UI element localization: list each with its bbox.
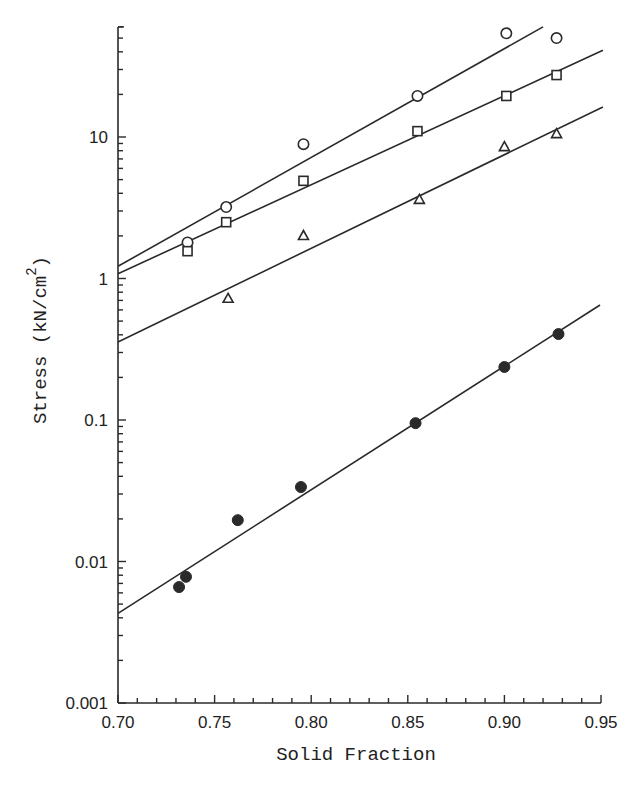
x-axis-title: Solid Fraction [276,744,436,766]
data-point-circle-open [551,33,561,43]
fit-line-circle-filled [118,305,600,613]
x-tick-label: 0.90 [488,713,521,732]
x-tick-labels: 0.70 0.75 0.80 0.85 0.90 0.95 [101,713,617,732]
fit-lines [118,27,603,613]
data-point-circle-filled [174,582,185,593]
data-point-circle-filled [410,418,421,429]
data-point-circle-filled [295,482,306,493]
stress-vs-solid-fraction-chart: 0.001 0.01 0.1 1 10 0.70 0.75 0.80 0.85 … [0,0,641,795]
y-tick-label: 0.001 [65,694,108,713]
y-tick-label: 10 [89,128,108,147]
x-tick-label: 0.70 [101,713,134,732]
data-point-square-open [552,71,561,80]
data-point-triangle-open [298,231,308,240]
x-ticks [118,695,601,703]
data-point-circle-open [298,139,308,149]
data-point-triangle-open [414,194,424,203]
y-tick-label: 0.01 [75,553,108,572]
y-tick-label: 1 [99,270,108,289]
y-tick-label: 0.1 [84,411,108,430]
data-point-circle-filled [232,515,243,526]
data-markers [174,28,564,592]
data-point-circle-filled [499,361,510,372]
y-ticks [118,27,126,703]
data-point-circle-open [501,28,511,38]
data-point-circle-filled [181,571,192,582]
data-point-square-open [502,91,511,100]
y-axis-title-superscript: 2 [24,267,40,275]
data-point-triangle-open [499,142,509,151]
y-axis-title-main: Stress (kN/cm [30,276,52,424]
data-point-circle-filled [553,329,564,340]
x-tick-label: 0.85 [391,713,424,732]
x-tick-label: 0.75 [198,713,231,732]
x-tick-label: 0.80 [295,713,328,732]
data-point-triangle-open [552,129,562,138]
data-point-square-open [183,247,192,256]
y-tick-labels: 0.001 0.01 0.1 1 10 [65,128,108,713]
data-point-triangle-open [223,293,233,302]
axes [118,27,601,703]
data-point-square-open [299,176,308,185]
y-axis-title-suffix: ) [30,256,52,267]
data-point-square-open [222,218,231,227]
data-point-square-open [413,127,422,136]
x-tick-label: 0.95 [584,713,617,732]
y-axis-title: Stress (kN/cm2) [24,256,52,424]
data-point-circle-open [412,91,422,101]
data-point-circle-open [221,202,231,212]
fit-line-circle-open [118,27,543,266]
